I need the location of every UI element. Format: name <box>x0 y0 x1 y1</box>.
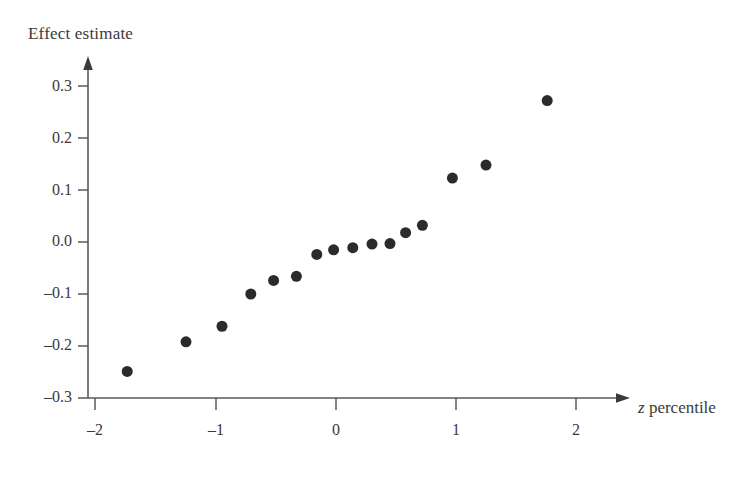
data-point-group <box>122 95 553 377</box>
data-point <box>122 366 133 377</box>
data-point <box>311 249 322 260</box>
data-point <box>245 289 256 300</box>
data-point <box>481 160 492 171</box>
data-point <box>367 239 378 250</box>
scatter-plot-figure: Effect estimate z percentile 0.3 0.2 0.1… <box>0 0 754 478</box>
x-tick-marks <box>95 398 576 410</box>
x-axis-arrowhead <box>616 393 630 403</box>
data-point <box>385 238 396 249</box>
y-tick-marks <box>78 86 88 398</box>
data-point <box>417 220 428 231</box>
data-point <box>291 271 302 282</box>
data-point <box>542 95 553 106</box>
data-point <box>268 275 279 286</box>
data-point <box>400 227 411 238</box>
data-point <box>328 244 339 255</box>
data-point <box>181 336 192 347</box>
plot-canvas <box>0 0 754 478</box>
y-axis-arrowhead <box>83 56 93 70</box>
data-point <box>347 242 358 253</box>
data-point <box>447 173 458 184</box>
data-point <box>217 321 228 332</box>
